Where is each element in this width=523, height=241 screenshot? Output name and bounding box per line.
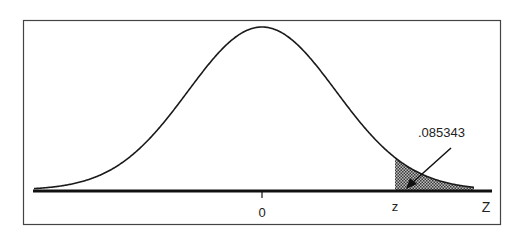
zero-label: 0 bbox=[258, 205, 265, 220]
normal-curve-chart: 0 z Z .085343 bbox=[0, 0, 523, 241]
z-marker-label: z bbox=[392, 199, 399, 214]
area-value-label: .085343 bbox=[418, 125, 465, 140]
normal-density-curve bbox=[34, 27, 474, 189]
axis-label-z: Z bbox=[482, 199, 491, 215]
